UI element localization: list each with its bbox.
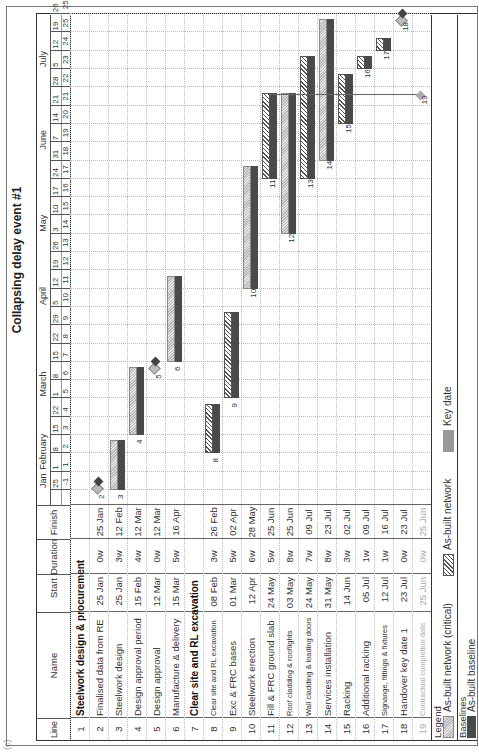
- date-tick: 28: [51, 77, 60, 86]
- date-tick: 8: [51, 447, 60, 451]
- task-id-label: 19: [420, 95, 429, 104]
- task-bar[interactable]: [376, 38, 384, 51]
- task-name: Racking: [337, 612, 356, 716]
- tick-mark: [50, 379, 70, 380]
- week-number: 3: [61, 426, 70, 430]
- task-bar[interactable]: [300, 56, 308, 179]
- task-id-label: 8: [211, 458, 220, 462]
- task-duration: 3w: [337, 539, 356, 574]
- task-start: 15 Feb: [128, 574, 147, 612]
- task-bar[interactable]: [167, 276, 175, 362]
- tick-mark: [50, 324, 70, 325]
- task-id-label: 2: [97, 495, 106, 499]
- task-name: Signange, fittings & fixtures: [375, 612, 394, 716]
- task-duration: 5w: [166, 539, 185, 574]
- baseline-bar: [232, 312, 239, 398]
- tick-mark: [50, 343, 70, 344]
- week-number: 6: [61, 371, 70, 375]
- tick-mark: [50, 251, 70, 252]
- task-bar[interactable]: [110, 440, 118, 490]
- task-id-label: 9: [230, 403, 239, 407]
- header-duration: Duration: [37, 539, 70, 574]
- tick-mark: [50, 196, 70, 197]
- week-number: 15: [61, 202, 70, 211]
- date-tick: 26: [51, 3, 60, 12]
- line-number: 4: [128, 718, 147, 740]
- task-name: Wall cladding & loading doors: [299, 612, 318, 716]
- task-finish: 26 Feb: [204, 505, 223, 539]
- task-duration: 5w: [223, 539, 242, 574]
- legend-item-network: As-built network: [442, 479, 453, 550]
- table-row[interactable]: 18Handover key date 123 Jul0w23 Jul: [393, 15, 412, 740]
- task-start: 24 May: [261, 574, 280, 612]
- task-bar[interactable]: [319, 19, 327, 160]
- line-number: 14: [318, 718, 337, 740]
- task-bar[interactable]: [205, 404, 213, 454]
- baseline-bar: [118, 440, 125, 490]
- task-duration: 7w: [299, 539, 318, 574]
- task-bar[interactable]: [281, 93, 289, 234]
- date-tick: 12: [51, 40, 60, 49]
- line-number: 6: [166, 718, 185, 740]
- table-row[interactable]: 10Steelwork erection12 Apr6w28 May: [241, 15, 260, 740]
- task-id-label: 14: [325, 161, 334, 170]
- tick-mark: [50, 288, 70, 289]
- task-duration: 5w: [261, 539, 280, 574]
- week-number: 10: [61, 293, 70, 302]
- table-row[interactable]: 3Steelwork design25 Jan3w12 Feb: [108, 15, 127, 740]
- task-duration: 0w: [394, 539, 413, 574]
- task-id-label: 16: [363, 69, 372, 78]
- legend-item-keydate: Key date: [442, 387, 453, 426]
- month-label: June: [38, 130, 48, 150]
- table-row[interactable]: 6Manufacture & delivery15 Mar5w16 Apr: [165, 15, 184, 740]
- table-row[interactable]: 8Clear site and RL excavation08 Feb3w26 …: [203, 15, 222, 740]
- date-tick: 22: [51, 333, 60, 342]
- task-start: 05 Jul: [356, 574, 375, 612]
- task-bar[interactable]: [243, 166, 251, 289]
- line-number: 9: [223, 718, 242, 740]
- line-number: 11: [261, 718, 280, 740]
- task-bar[interactable]: [262, 93, 270, 179]
- tick-mark: [50, 269, 70, 270]
- table-row[interactable]: 1Steelwork design & procurement: [70, 15, 89, 740]
- task-id-label: 13: [306, 179, 315, 188]
- date-tick: 29: [51, 314, 60, 323]
- week-number: -1: [61, 478, 70, 485]
- date-tick: 7: [51, 136, 60, 140]
- task-start: 31 May: [318, 574, 337, 612]
- task-start: 25 Jan: [109, 574, 128, 612]
- baseline-bar: [251, 166, 258, 289]
- tick-mark: [50, 452, 70, 453]
- date-tick: 3: [51, 227, 60, 231]
- line-number: 12: [280, 718, 299, 740]
- task-bar[interactable]: [224, 312, 232, 398]
- task-start: 25 Jun: [413, 574, 432, 612]
- task-finish: 09 Jul: [356, 505, 375, 539]
- task-bar[interactable]: [338, 74, 346, 124]
- task-finish: 25 Jun: [261, 505, 280, 539]
- date-tick: 8: [51, 374, 60, 378]
- task-finish: 02 Apr: [223, 505, 242, 539]
- table-row[interactable]: 2Finalised data from RE25 Jan0w25 Jan: [89, 15, 108, 740]
- date-tick: 15: [51, 424, 60, 433]
- task-id-label: 15: [344, 124, 353, 133]
- date-tick: 21: [51, 95, 60, 104]
- table-row[interactable]: 16Additional racking05 Jul1w09 Jul: [355, 15, 374, 740]
- date-tick: 17: [51, 186, 60, 195]
- week-number: 8: [61, 334, 70, 338]
- task-bar[interactable]: [357, 56, 365, 69]
- task-name: Steelwork erection: [242, 612, 261, 716]
- task-id-label: 18: [401, 22, 410, 31]
- week-number: 22: [61, 74, 70, 83]
- task-start: 14 Jun: [337, 574, 356, 612]
- tick-mark: [50, 434, 70, 435]
- task-bar[interactable]: [129, 367, 137, 435]
- header-finish: Finish: [37, 505, 70, 539]
- task-start: 12 Mar: [147, 574, 166, 612]
- line-number: 2: [90, 718, 109, 740]
- table-row[interactable]: 19Contractual completion date25 Jun0w25 …: [412, 15, 431, 740]
- week-number: 2: [61, 444, 70, 448]
- task-name: Clear site and RL excavation: [204, 612, 223, 716]
- table-row[interactable]: 17Signange, fittings & fixtures12 Jul1w1…: [374, 15, 393, 740]
- table-row[interactable]: 7Clear site and RL excavation: [184, 15, 203, 740]
